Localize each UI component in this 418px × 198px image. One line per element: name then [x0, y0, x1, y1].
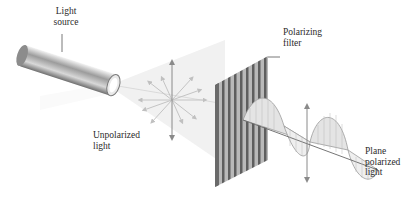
plane-polarized-light-label: Plane polarized light [365, 146, 400, 178]
light-source-icon [14, 34, 123, 97]
polarization-diagram: Light source Polarizing filter Unpolariz… [0, 0, 418, 198]
light-source-label: Light source [49, 6, 83, 27]
polarizing-filter-label: Polarizing filter [283, 27, 322, 48]
unpolarized-light-label: Unpolarized light [93, 130, 140, 151]
diagram-artwork [0, 0, 418, 198]
